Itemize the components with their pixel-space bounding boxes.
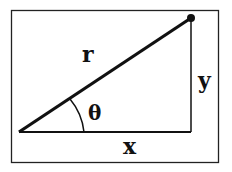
hypotenuse-r xyxy=(19,18,191,132)
label-r: r xyxy=(82,41,94,67)
angle-arc xyxy=(70,99,84,132)
label-x: x xyxy=(123,133,137,159)
endpoint-dot xyxy=(187,14,195,22)
right-triangle-diagram: r y x θ xyxy=(0,0,232,172)
frame-border xyxy=(12,11,219,163)
label-theta: θ xyxy=(88,101,101,125)
label-y: y xyxy=(197,67,212,93)
